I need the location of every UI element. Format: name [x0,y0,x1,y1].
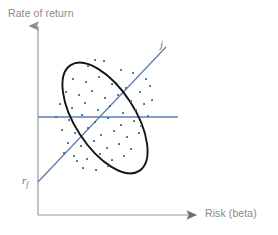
scatter-point [104,97,106,99]
scatter-point [122,112,124,114]
scatter-point [147,115,149,117]
scatter-point [86,158,88,160]
scatter-point [94,121,96,123]
scatter-point [71,107,73,109]
scatter-point [93,140,95,142]
scatter-point [130,100,132,102]
security-market-line-label: j [160,38,163,50]
scatter-point [85,81,87,83]
confidence-ellipse [46,49,165,187]
risk-free-rate-label: rf [22,174,29,189]
scatter-point [95,169,97,171]
scatter-point [140,125,142,127]
scatter-point [80,145,82,147]
scatter-point [138,132,140,134]
scatter-point [107,165,109,167]
scatter-point [106,147,108,149]
x-axis-label: Risk (beta) [205,207,257,219]
y-axis-label: Rate of return [8,7,74,19]
scatter-point [120,69,122,71]
scatter-point [130,148,132,150]
scatter-point [59,103,61,105]
scatter-point [143,103,145,105]
scatter-point [67,142,69,144]
scatter-point [120,124,122,126]
chart-canvas [0,0,278,235]
scatter-point [111,83,113,85]
scatter-point [78,94,80,96]
scatter-point [72,78,74,80]
scatter-point [65,91,67,93]
scatter-point [100,134,102,136]
scatter-point [68,119,70,121]
scatter-point [99,153,101,155]
scatter-point [149,85,151,87]
scatter-point [81,114,83,116]
scatter-point [82,167,84,169]
scatter-point [107,117,109,119]
scatter-point [139,91,141,93]
scatter-point [63,152,65,154]
scatter-point [76,160,78,162]
scatter-point [123,155,125,157]
scatter-point [113,130,115,132]
scatter-point [133,120,135,122]
scatter-point [98,76,100,78]
scatter-point [84,102,86,104]
scatter-point [94,59,96,61]
scatter-point [111,159,113,161]
scatter-point [135,109,137,111]
scatter-point [61,129,63,131]
scatter-point [109,105,111,107]
axis-lines [38,26,196,215]
scatter-point [132,72,134,74]
scatter-point [117,94,119,96]
scatter-point [87,65,89,67]
scatter-point [97,109,99,111]
scatter-point [151,99,153,101]
chart-figure: Rate of return Risk (beta) j rf [0,0,278,235]
scatter-point [73,155,75,157]
scatter-point [87,127,89,129]
scatter-point [74,132,76,134]
scatter-point [125,87,127,89]
scatter-point [91,90,93,92]
risk-free-rate-subscript: f [26,180,28,189]
scatter-point [55,116,57,118]
scatter-point [118,143,120,145]
scatter-point [126,136,128,138]
scatter-point [103,60,105,62]
scatter-point [145,78,147,80]
